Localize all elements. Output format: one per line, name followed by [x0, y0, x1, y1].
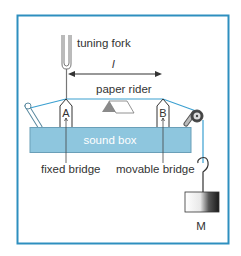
length-arrow [68, 71, 162, 77]
tuning-fork-icon [62, 35, 71, 100]
sound-box-label: sound box [83, 134, 136, 146]
bridge-b-label: B [159, 107, 166, 119]
bridge-a-label: A [62, 107, 70, 119]
sonometer-diagram: tuning fork l paper rider sound box A [0, 0, 241, 256]
mass-label: M [196, 220, 206, 232]
fixed-bridge-label: fixed bridge [41, 163, 100, 175]
paper-rider-icon [102, 101, 134, 113]
movable-bridge-label: movable bridge [116, 163, 195, 175]
length-label: l [112, 58, 115, 70]
mass-weight [185, 192, 219, 212]
paper-rider-label: paper rider [96, 83, 152, 95]
pulley-icon [186, 110, 203, 124]
tuning-fork-label: tuning fork [77, 37, 131, 49]
